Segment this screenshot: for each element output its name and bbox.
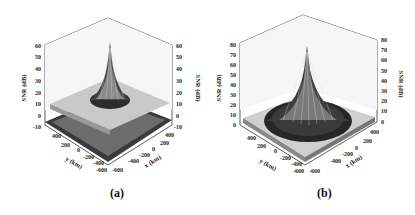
y-axis-label-a: y (km) xyxy=(64,155,84,171)
svg-text:60: 60 xyxy=(381,57,387,63)
y-axis-label-b: y (km) xyxy=(258,157,278,173)
svg-text:40: 40 xyxy=(381,78,387,84)
z-axis-left-ticks-b: 80 70 60 50 40 30 20 10 0 xyxy=(230,42,236,128)
svg-text:-400: -400 xyxy=(291,161,302,167)
svg-text:40: 40 xyxy=(230,82,236,88)
caption-b: (b) xyxy=(317,186,332,201)
svg-text:60: 60 xyxy=(176,43,182,49)
svg-text:40: 40 xyxy=(35,66,41,72)
svg-text:0: 0 xyxy=(381,119,384,125)
svg-text:-600: -600 xyxy=(293,168,304,174)
surface-plot-a: 60 50 40 30 20 10 0 -10 SNR (dB) 60 50 4… xyxy=(0,0,207,185)
svg-text:0: 0 xyxy=(152,146,155,152)
svg-text:0: 0 xyxy=(77,147,80,153)
svg-text:20: 20 xyxy=(176,90,182,96)
z-axis-label-right-b: SNR (dB) xyxy=(397,71,405,98)
svg-text:-10: -10 xyxy=(33,124,41,130)
svg-text:50: 50 xyxy=(35,54,41,60)
svg-text:0: 0 xyxy=(233,122,236,128)
z-axis-right-ticks-b: 80 70 60 50 40 30 20 10 0 xyxy=(381,37,387,125)
svg-text:-400: -400 xyxy=(330,158,341,164)
svg-text:0: 0 xyxy=(176,113,179,119)
caption-a: (a) xyxy=(110,186,124,201)
svg-text:30: 30 xyxy=(176,78,182,84)
svg-text:200: 200 xyxy=(363,138,372,144)
svg-text:50: 50 xyxy=(381,68,387,74)
svg-text:0: 0 xyxy=(38,113,41,119)
svg-text:10: 10 xyxy=(176,101,182,107)
svg-text:10: 10 xyxy=(230,112,236,118)
svg-text:200: 200 xyxy=(257,143,266,149)
svg-text:20: 20 xyxy=(381,98,387,104)
svg-text:30: 30 xyxy=(381,88,387,94)
svg-text:0: 0 xyxy=(274,148,277,154)
z-axis-label-right-a: SNR (dB) xyxy=(194,75,202,102)
svg-text:-600: -600 xyxy=(309,168,320,174)
svg-text:-200: -200 xyxy=(139,152,150,158)
svg-text:-600: -600 xyxy=(96,167,107,173)
svg-text:20: 20 xyxy=(35,90,41,96)
svg-text:70: 70 xyxy=(381,47,387,53)
svg-text:400: 400 xyxy=(165,132,174,138)
svg-text:200: 200 xyxy=(61,142,70,148)
svg-text:10: 10 xyxy=(381,108,387,114)
svg-text:50: 50 xyxy=(176,54,182,60)
svg-text:10: 10 xyxy=(35,101,41,107)
svg-text:80: 80 xyxy=(230,42,236,48)
svg-text:200: 200 xyxy=(160,140,169,146)
svg-text:400: 400 xyxy=(370,129,379,135)
svg-text:400: 400 xyxy=(52,133,61,139)
surface-plot-b: 80 70 60 50 40 30 20 10 0 SNR (dB) 80 70… xyxy=(205,0,415,185)
svg-text:-200: -200 xyxy=(342,151,353,157)
svg-text:-400: -400 xyxy=(128,158,139,164)
svg-text:60: 60 xyxy=(230,62,236,68)
z-axis-right-ticks-a: 60 50 40 30 20 10 0 -10 xyxy=(174,43,182,130)
svg-text:30: 30 xyxy=(230,92,236,98)
z-axis-label-left-b: SNR (dB) xyxy=(215,75,223,102)
svg-text:-200: -200 xyxy=(280,155,291,161)
svg-text:40: 40 xyxy=(176,66,182,72)
svg-text:-10: -10 xyxy=(174,124,182,130)
z-axis-label-left-a: SNR (dB) xyxy=(20,75,28,102)
svg-text:30: 30 xyxy=(35,78,41,84)
chart-panel-a: 60 50 40 30 20 10 0 -10 SNR (dB) 60 50 4… xyxy=(0,0,207,215)
svg-text:70: 70 xyxy=(230,52,236,58)
svg-text:80: 80 xyxy=(381,37,387,43)
svg-text:0: 0 xyxy=(355,145,358,151)
chart-panel-b: 80 70 60 50 40 30 20 10 0 SNR (dB) 80 70… xyxy=(205,0,412,215)
svg-text:-600: -600 xyxy=(112,167,123,173)
svg-text:50: 50 xyxy=(230,72,236,78)
svg-text:400: 400 xyxy=(247,135,256,141)
svg-text:-400: -400 xyxy=(93,160,104,166)
z-axis-left-ticks-a: 60 50 40 30 20 10 0 -10 xyxy=(33,43,41,130)
svg-text:20: 20 xyxy=(230,102,236,108)
svg-text:60: 60 xyxy=(35,43,41,49)
